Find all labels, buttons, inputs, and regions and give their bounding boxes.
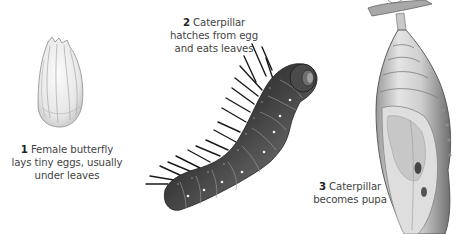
stage-2-line3: and eats leaves [158, 42, 270, 55]
stage-2-text: Caterpillar [193, 17, 245, 28]
stage-3-text: Caterpillar [329, 181, 381, 192]
stage-2-number: 2 [183, 17, 190, 28]
stage-1-line3: under leaves [6, 169, 128, 182]
stage-3-heading: 3 Caterpillar [302, 180, 398, 193]
stage-2-line2: hatches from egg [158, 29, 270, 42]
caterpillar-illustration [146, 44, 317, 210]
stage-1-number: 1 [21, 144, 28, 155]
stage-2-caption: 2 Caterpillar hatches from egg and eats … [158, 16, 270, 55]
stage-1-caption: 1 Female butterfly lays tiny eggs, usual… [6, 143, 128, 182]
stage-2-heading: 2 Caterpillar [158, 16, 270, 29]
stage-3-caption: 3 Caterpillar becomes pupa [302, 180, 398, 206]
life-cycle-diagram: 1 Female butterfly lays tiny eggs, usual… [0, 0, 467, 234]
stage-3-line2: becomes pupa [302, 193, 398, 206]
stage-1-line2: lays tiny eggs, usually [6, 156, 128, 169]
stage-1-heading: 1 Female butterfly [6, 143, 128, 156]
egg-illustration [38, 37, 83, 127]
stage-1-text: Female butterfly [31, 144, 113, 155]
stage-3-number: 3 [319, 181, 326, 192]
